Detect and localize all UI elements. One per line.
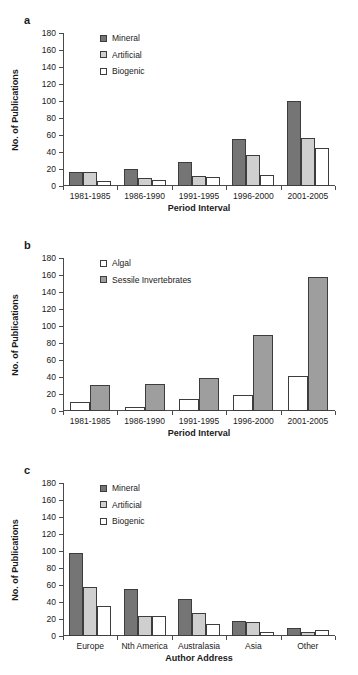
y-tick-label-c: 180 xyxy=(42,479,56,488)
bar-a xyxy=(124,169,138,186)
x-tick-label-a: 1991-1995 xyxy=(179,192,220,201)
bar-a xyxy=(83,172,97,186)
bar-b xyxy=(70,402,90,411)
x-tick-label-c: Nth America xyxy=(121,642,167,651)
bar-c xyxy=(152,616,166,636)
y-tick-label-b: 40 xyxy=(47,373,56,382)
panel-letter-a: a xyxy=(24,14,30,26)
bar-c xyxy=(232,621,246,636)
x-tick-label-b: 1986-1990 xyxy=(124,417,165,426)
bar-c xyxy=(83,587,97,636)
y-tick-label-b: 160 xyxy=(42,271,56,280)
bar-c xyxy=(206,624,220,636)
legend-a: MineralArtificialBiogenic xyxy=(100,34,145,84)
x-axis-title-b: Period Interval xyxy=(63,428,335,438)
legend-item-biogenic: Biogenic xyxy=(100,517,145,526)
y-tick-label-a: 180 xyxy=(42,29,56,38)
bar-c xyxy=(178,599,192,636)
x-tick-label-a: 1981-1985 xyxy=(70,192,111,201)
x-tick-label-c: Other xyxy=(297,642,318,651)
x-tick-c xyxy=(335,636,336,640)
legend-item-biogenic: Biogenic xyxy=(100,67,145,76)
y-tick-label-c: 60 xyxy=(47,581,56,590)
y-tick-label-a: 100 xyxy=(42,97,56,106)
y-tick-c xyxy=(59,517,63,518)
legend-swatch-biogenic-icon xyxy=(100,518,107,525)
bar-a xyxy=(206,177,220,186)
y-tick-b xyxy=(59,394,63,395)
bar-c xyxy=(260,632,274,636)
bar-c xyxy=(138,616,152,636)
bar-a xyxy=(315,148,329,186)
y-tick-label-a: 40 xyxy=(47,148,56,157)
legend-item-mineral: Mineral xyxy=(100,484,145,493)
bar-c xyxy=(315,630,329,636)
bar-a xyxy=(260,175,274,186)
y-tick-a xyxy=(59,101,63,102)
bar-b xyxy=(125,407,145,411)
panel-b: b No. of Publications 020406080100120140… xyxy=(0,225,358,450)
legend-swatch-sessile-icon xyxy=(100,276,107,283)
y-axis-line-a xyxy=(63,33,64,186)
bar-c xyxy=(124,589,138,636)
bar-a xyxy=(192,176,206,186)
y-axis-line-b xyxy=(63,258,64,411)
y-axis-title-text-a: No. of Publications xyxy=(10,69,20,151)
y-tick-label-a: 160 xyxy=(42,46,56,55)
x-tick-c xyxy=(63,636,64,640)
bar-c xyxy=(192,613,206,636)
x-tick-b xyxy=(117,411,118,415)
x-tick-label-c: Australasia xyxy=(178,642,220,651)
bar-c xyxy=(301,632,315,636)
y-tick-a xyxy=(59,135,63,136)
x-tick-label-b: 2001-2005 xyxy=(287,417,328,426)
y-tick-b xyxy=(59,258,63,259)
y-tick-b xyxy=(59,360,63,361)
legend-item-algal: Algal xyxy=(100,259,191,268)
bar-a xyxy=(97,181,111,186)
y-tick-label-b: 60 xyxy=(47,356,56,365)
bar-c xyxy=(69,553,83,636)
y-tick-b xyxy=(59,292,63,293)
x-tick-b xyxy=(226,411,227,415)
x-tick-c xyxy=(117,636,118,640)
legend-label-artificial: Artificial xyxy=(112,501,142,510)
legend-label-biogenic: Biogenic xyxy=(112,517,145,526)
x-tick-a xyxy=(172,186,173,190)
y-tick-c xyxy=(59,500,63,501)
y-tick-b xyxy=(59,377,63,378)
y-axis-title-text-b: No. of Publications xyxy=(10,294,20,376)
y-tick-label-a: 60 xyxy=(47,131,56,140)
legend-label-mineral: Mineral xyxy=(112,484,140,493)
x-tick-label-c: Asia xyxy=(245,642,262,651)
legend-item-artificial: Artificial xyxy=(100,501,145,510)
y-axis-title-text-c: No. of Publications xyxy=(10,519,20,601)
panel-c: c No. of Publications 020406080100120140… xyxy=(0,450,358,675)
legend-label-artificial: Artificial xyxy=(112,51,142,60)
x-tick-label-a: 1996-2000 xyxy=(233,192,274,201)
legend-c: MineralArtificialBiogenic xyxy=(100,484,145,534)
y-tick-label-a: 80 xyxy=(47,114,56,123)
y-tick-label-b: 80 xyxy=(47,339,56,348)
y-tick-c xyxy=(59,483,63,484)
y-tick-label-b: 180 xyxy=(42,254,56,263)
y-tick-a xyxy=(59,84,63,85)
y-tick-label-c: 80 xyxy=(47,564,56,573)
bar-b xyxy=(288,376,308,411)
y-tick-c xyxy=(59,551,63,552)
bar-a xyxy=(69,172,83,186)
bar-a xyxy=(178,162,192,186)
bar-a xyxy=(138,178,152,187)
y-tick-label-a: 20 xyxy=(47,165,56,174)
bar-b xyxy=(233,395,253,411)
x-tick-label-a: 1986-1990 xyxy=(124,192,165,201)
y-tick-b xyxy=(59,309,63,310)
bar-a xyxy=(301,138,315,186)
x-tick-label-b: 1991-1995 xyxy=(179,417,220,426)
y-axis-title-a: No. of Publications xyxy=(8,33,22,186)
y-tick-label-b: 120 xyxy=(42,305,56,314)
y-tick-a xyxy=(59,67,63,68)
y-axis-title-b: No. of Publications xyxy=(8,258,22,411)
y-tick-b xyxy=(59,343,63,344)
panel-a: a No. of Publications 020406080100120140… xyxy=(0,0,358,225)
